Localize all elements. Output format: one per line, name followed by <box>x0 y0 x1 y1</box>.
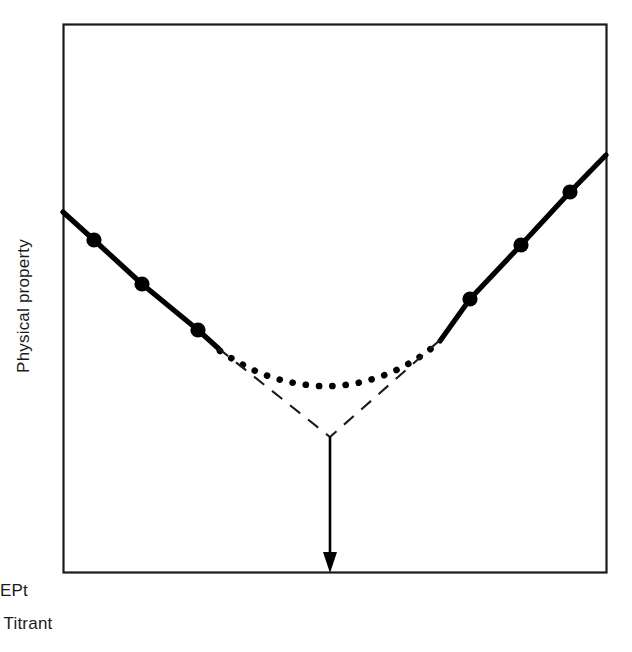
data-point-marker <box>190 322 205 337</box>
data-point-marker <box>86 232 101 247</box>
data-point-marker <box>562 184 577 199</box>
plot-frame <box>64 25 607 573</box>
data-point-marker <box>134 276 149 291</box>
x-axis-label: mL Titrant <box>0 614 330 634</box>
data-point-marker <box>513 237 528 252</box>
right-extrapolation-dashed <box>330 340 440 437</box>
data-point-marker <box>462 291 477 306</box>
plot-canvas <box>0 0 632 652</box>
endpoint-arrowhead-icon <box>323 552 337 573</box>
endpoint-label: EPt <box>0 581 330 601</box>
left-extrapolation-dashed <box>218 348 330 437</box>
titration-curve-figure: Physical property EPt mL Titrant <box>0 0 632 652</box>
curved-transition-dotted <box>220 343 438 386</box>
